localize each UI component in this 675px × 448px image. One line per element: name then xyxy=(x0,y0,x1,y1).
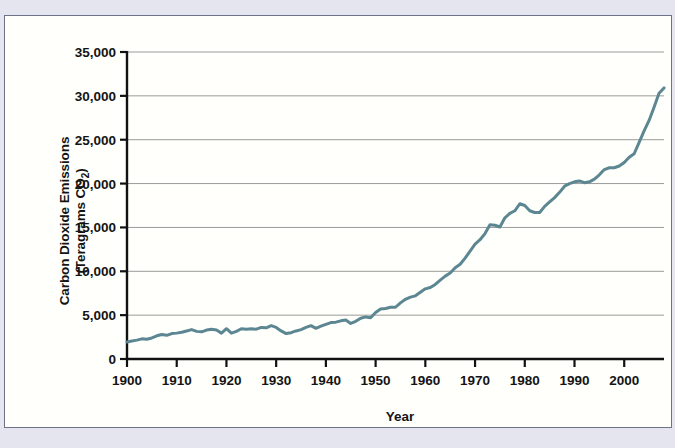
line-chart: 05,00010,00015,00020,00025,00030,00035,0… xyxy=(5,16,673,429)
y-tick-label: 0 xyxy=(108,352,116,367)
x-tick-label: 1990 xyxy=(559,373,589,388)
y-tick-label: 35,000 xyxy=(75,45,116,60)
x-tick-label: 1960 xyxy=(410,373,440,388)
x-tick-label: 1940 xyxy=(311,373,341,388)
x-axis-ticks: 1900191019201930194019501960197019801990… xyxy=(112,359,639,388)
x-tick-label: 1930 xyxy=(261,373,291,388)
y-axis-label-line2-suffix: ) xyxy=(73,168,88,172)
x-tick-label: 1900 xyxy=(112,373,142,388)
bottom-background-band xyxy=(0,428,675,448)
x-tick-label: 1910 xyxy=(162,373,192,388)
chart-panel: 05,00010,00015,00020,00025,00030,00035,0… xyxy=(4,15,672,428)
x-tick-label: 1980 xyxy=(510,373,540,388)
x-axis-label: Year xyxy=(131,409,669,424)
y-axis-label-line2-prefix: (Teragrams CO xyxy=(73,178,88,273)
x-tick-label: 1970 xyxy=(460,373,490,388)
y-axis-label-subscript: 2 xyxy=(80,173,91,178)
y-axis-label: Carbon Dioxide Emissions (Teragrams CO2) xyxy=(13,71,59,371)
y-axis-label-line1: Carbon Dioxide Emissions xyxy=(57,137,72,306)
x-tick-label: 2000 xyxy=(609,373,639,388)
x-tick-label: 1950 xyxy=(361,373,391,388)
emissions-line-series xyxy=(127,88,664,342)
x-tick-label: 1920 xyxy=(211,373,241,388)
figure-root: 05,00010,00015,00020,00025,00030,00035,0… xyxy=(0,0,675,448)
top-background-band xyxy=(0,0,675,15)
